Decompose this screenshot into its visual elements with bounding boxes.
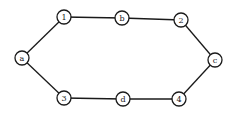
edges-group [22, 17, 215, 99]
node-label: c [213, 56, 218, 65]
node-label: 4 [176, 95, 181, 104]
node-label: d [120, 95, 125, 104]
node-label: 1 [61, 13, 66, 22]
node-c: c [208, 53, 222, 67]
node-3: 3 [57, 91, 71, 105]
edge-a-1 [22, 17, 64, 58]
edge-d-3 [64, 98, 123, 99]
graph-diagram: a1b2c4d3 [0, 0, 241, 119]
node-b: b [115, 11, 129, 25]
node-a: a [15, 51, 29, 65]
node-1: 1 [57, 10, 71, 24]
node-label: a [20, 54, 25, 63]
node-2: 2 [174, 13, 188, 27]
edge-3-a [22, 58, 64, 98]
nodes-group: a1b2c4d3 [15, 10, 222, 106]
edge-b-2 [122, 18, 181, 20]
edge-2-c [181, 20, 215, 60]
node-4: 4 [172, 92, 186, 106]
edge-1-b [64, 17, 122, 18]
node-d: d [116, 92, 130, 106]
node-label: b [119, 14, 124, 23]
node-label: 3 [61, 94, 66, 103]
node-label: 2 [178, 16, 183, 25]
edge-c-4 [179, 60, 215, 99]
